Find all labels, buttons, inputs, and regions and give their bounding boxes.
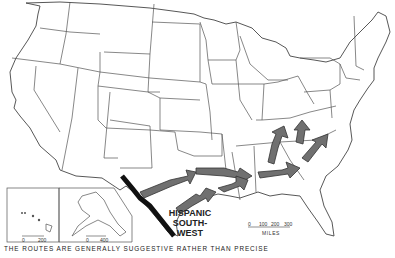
route-arrow-1 <box>140 170 196 198</box>
main-scale-unit: MILES <box>262 230 280 236</box>
region-label-line-3: WEST <box>160 228 220 238</box>
route-arrow-8 <box>302 134 328 162</box>
region-label: HISPANIC SOUTH- WEST <box>160 208 220 238</box>
main-scale-100: 100 <box>259 221 267 227</box>
route-arrow-5 <box>258 162 300 178</box>
alaska-inset <box>59 188 132 242</box>
main-scale-200: 200 <box>271 221 279 227</box>
main-scale-0: 0 <box>248 221 251 227</box>
alaska-scale-0: 0 <box>86 237 89 243</box>
route-arrow-4 <box>218 176 248 192</box>
map-caption: THE ROUTES ARE GENERALLY SUGGESTIVE RATH… <box>4 245 269 252</box>
region-label-line-1: HISPANIC <box>160 208 220 218</box>
hawaii-scale-0: 0 <box>22 237 25 243</box>
route-arrows <box>140 120 328 214</box>
route-arrow-6 <box>268 126 288 164</box>
alaska-scale-400: 400 <box>100 237 108 243</box>
hawaii-scale-200: 200 <box>38 237 46 243</box>
main-scale-300: 300 <box>284 221 292 227</box>
region-label-line-2: SOUTH- <box>160 218 220 228</box>
